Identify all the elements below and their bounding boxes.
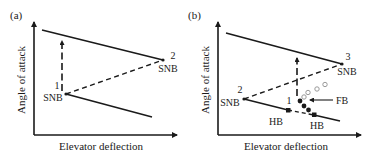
y-axis-label-b: Angle of attack — [199, 46, 211, 114]
point-3-number-b: 3 — [346, 51, 351, 62]
unstable-orbit-circle — [306, 90, 310, 94]
point-2-number-b: 2 — [238, 84, 243, 95]
y-axis-label-a: Angle of attack — [15, 46, 27, 114]
hb-marker-right — [312, 113, 317, 118]
snb-point-2-a — [161, 58, 164, 61]
x-axis-label-b: Elevator deflection — [244, 140, 328, 152]
stable-orbit-dot — [306, 108, 311, 113]
panel-a-label: (a) — [10, 9, 23, 22]
snb-point-2-b — [242, 97, 245, 100]
lower-stable-branch-a — [66, 94, 152, 117]
point-1-type-a: SNB — [43, 92, 63, 103]
stable-orbit-dot — [302, 104, 307, 109]
panel-b: (b) Angle of attack Elevator deflection — [188, 9, 361, 152]
x-axis-label-a: Elevator deflection — [59, 140, 143, 152]
point-1-number-b: 1 — [287, 95, 292, 106]
point-1-number-a: 1 — [55, 80, 60, 91]
point-2-type-a: SNB — [158, 63, 178, 74]
hb-label-left: HB — [269, 116, 283, 127]
hb-marker-left — [286, 108, 291, 113]
hb-label-right: HB — [310, 120, 324, 131]
stable-orbit-dot — [298, 99, 303, 104]
point-2-number-a: 2 — [171, 50, 176, 61]
upper-stable-branch-b — [226, 33, 342, 64]
unstable-orbit-circle — [315, 87, 319, 91]
unstable-orbit-circle — [302, 95, 306, 99]
panel-a: (a) Angle of attack Elevator deflection … — [10, 9, 178, 152]
upper-stable-branch-a — [42, 30, 163, 60]
lower-stable-branch-left-b — [244, 99, 288, 110]
point-3-type-b: SNB — [337, 66, 357, 77]
bifurcation-diagram: (a) Angle of attack Elevator deflection … — [0, 0, 375, 156]
point-2-type-b: SNB — [220, 97, 240, 108]
snb-point-1-a — [64, 92, 67, 95]
fb-label: FB — [336, 95, 349, 106]
panel-b-label: (b) — [188, 9, 201, 22]
unstable-branch-b — [244, 64, 342, 99]
unstable-orbit-circle — [323, 82, 327, 86]
unstable-branch-a — [66, 60, 163, 94]
